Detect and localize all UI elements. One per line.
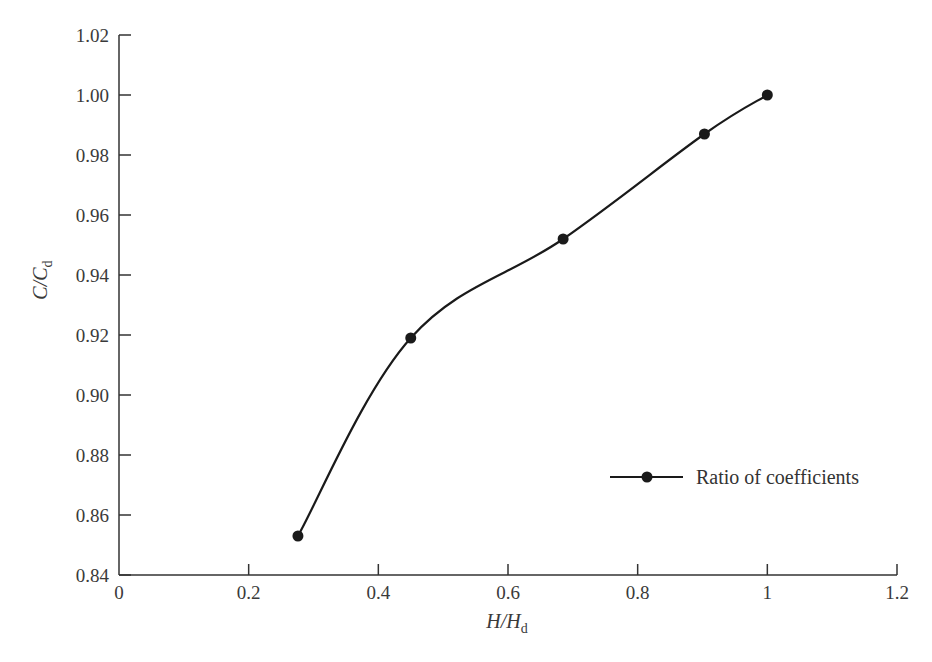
x-tick-label: 1.2 — [885, 582, 909, 603]
data-point-marker — [558, 234, 569, 245]
x-tick-label: 0.6 — [496, 582, 520, 603]
y-tick-label: 1.00 — [76, 85, 109, 106]
x-tick-label: 0 — [114, 582, 124, 603]
axes — [119, 35, 897, 575]
legend-marker-icon — [642, 472, 653, 483]
y-ticks: 0.860.880.900.920.940.960.981.001.020.84 — [76, 25, 131, 586]
x-tick-label: 0.2 — [237, 582, 261, 603]
x-tick-label: 0.4 — [366, 582, 390, 603]
y-tick-label: 0.98 — [76, 145, 109, 166]
y-tick-label: 0.96 — [76, 205, 109, 226]
y-tick-label: 0.94 — [76, 265, 110, 286]
x-tick-label: 0.8 — [626, 582, 650, 603]
y-tick-label: 0.90 — [76, 385, 109, 406]
y-axis-title: C/Cd — [29, 260, 55, 299]
data-point-marker — [405, 333, 416, 344]
y-tick-label: 0.92 — [76, 325, 109, 346]
x-tick-label: 1 — [763, 582, 773, 603]
chart: 0.860.880.900.920.940.960.981.001.020.84… — [0, 0, 932, 662]
legend-label: Ratio of coefficients — [696, 466, 859, 488]
y-tick-label: 0.84 — [76, 565, 110, 586]
data-point-marker — [292, 531, 303, 542]
x-axis-title: H/Hd — [485, 610, 527, 636]
data-point-marker — [762, 90, 773, 101]
y-tick-label: 1.02 — [76, 25, 109, 46]
data-point-marker — [699, 129, 710, 140]
y-tick-label: 0.88 — [76, 445, 109, 466]
y-tick-label: 0.86 — [76, 505, 109, 526]
legend: Ratio of coefficients — [610, 466, 859, 488]
x-ticks: 00.20.40.60.811.2 — [114, 564, 909, 603]
